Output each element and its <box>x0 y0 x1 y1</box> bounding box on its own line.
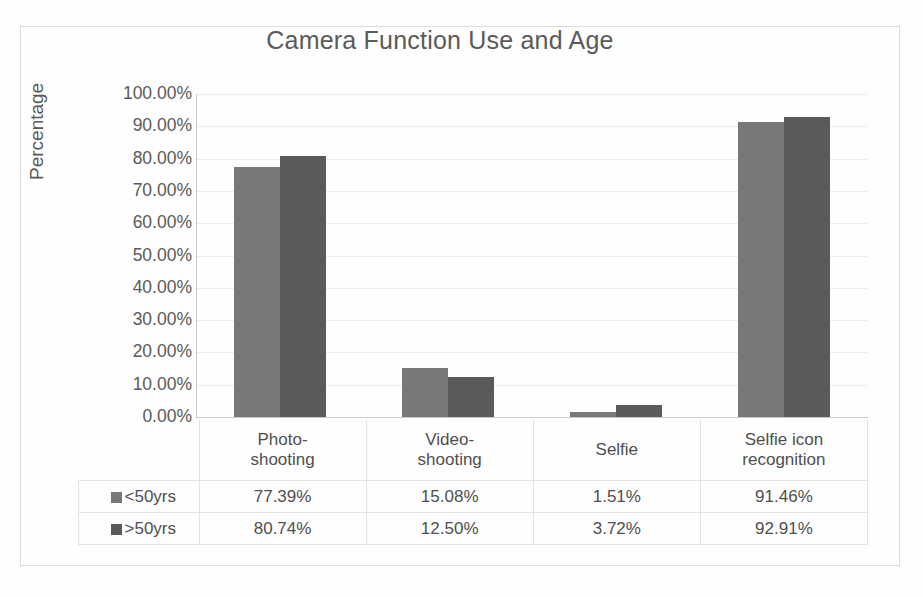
y-axis-tick-label: 70.00% <box>88 180 192 201</box>
legend-label: >50yrs <box>125 519 177 538</box>
y-axis-title: Percentage <box>26 30 48 180</box>
table-cell-value: 77.39% <box>199 481 366 513</box>
bar-group <box>364 94 532 417</box>
category-label-line: Photo- <box>200 430 366 450</box>
bar-group <box>700 94 868 417</box>
bar-groups <box>196 94 868 417</box>
bar-0 <box>234 167 280 417</box>
plot-area <box>196 94 868 417</box>
y-axis-tick-label: 40.00% <box>88 277 192 298</box>
y-axis-tick-label: 30.00% <box>88 309 192 330</box>
table-row: >50yrs80.74%12.50%3.72%92.91% <box>79 513 868 545</box>
legend-label: <50yrs <box>125 487 177 506</box>
y-axis-tick-label: 80.00% <box>88 148 192 169</box>
category-label-line: shooting <box>367 450 533 470</box>
legend-entry[interactable]: >50yrs <box>79 513 200 545</box>
table-column-header: Video-shooting <box>366 420 533 481</box>
table-column-header: Selfie iconrecognition <box>700 420 867 481</box>
bar-1 <box>616 405 662 417</box>
bar-1 <box>784 117 830 417</box>
legend-entry[interactable]: <50yrs <box>79 481 200 513</box>
category-label-line: Selfie <box>534 440 700 460</box>
table-cell-value: 15.08% <box>366 481 533 513</box>
table-cell-value: 91.46% <box>700 481 867 513</box>
y-axis-tick-label: 10.00% <box>88 374 192 395</box>
category-label-line: recognition <box>701 450 867 470</box>
table-column-header: Photo-shooting <box>199 420 366 481</box>
y-axis-tick-label: 100.00% <box>88 83 192 104</box>
bar-0 <box>570 412 616 417</box>
table-cell-value: 3.72% <box>533 513 700 545</box>
legend-swatch-icon <box>111 492 122 503</box>
bar-group <box>532 94 700 417</box>
y-axis-tick-label: 60.00% <box>88 212 192 233</box>
table-cell-value: 80.74% <box>199 513 366 545</box>
chart-data-table: Photo-shootingVideo-shootingSelfieSelfie… <box>78 420 868 545</box>
category-label-line: Video- <box>367 430 533 450</box>
table-cell-value: 92.91% <box>700 513 867 545</box>
gridline <box>196 417 868 418</box>
table-header-row: Photo-shootingVideo-shootingSelfieSelfie… <box>79 420 868 481</box>
category-label-line: Selfie icon <box>701 430 867 450</box>
table-column-header: Selfie <box>533 420 700 481</box>
legend-swatch-icon <box>111 524 122 535</box>
bar-group <box>196 94 364 417</box>
category-label-line: shooting <box>200 450 366 470</box>
chart-title: Camera Function Use and Age <box>0 26 880 55</box>
table-corner-cell <box>79 420 200 481</box>
y-axis-tick-label: 50.00% <box>88 245 192 266</box>
y-axis-tick-label: 20.00% <box>88 341 192 362</box>
y-axis-tick-labels: 100.00%90.00%80.00%70.00%60.00%50.00%40.… <box>78 94 192 417</box>
bar-0 <box>402 368 448 417</box>
bar-0 <box>738 122 784 417</box>
bar-1 <box>448 377 494 417</box>
table-cell-value: 1.51% <box>533 481 700 513</box>
table-cell-value: 12.50% <box>366 513 533 545</box>
y-axis-tick-label: 90.00% <box>88 115 192 136</box>
bar-1 <box>280 156 326 417</box>
table-row: <50yrs77.39%15.08%1.51%91.46% <box>79 481 868 513</box>
